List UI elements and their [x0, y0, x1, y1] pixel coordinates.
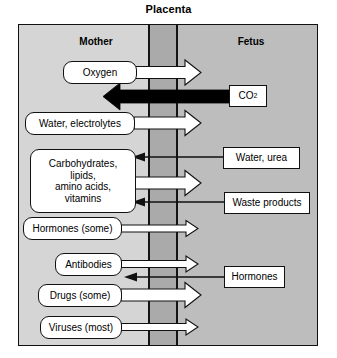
label-nutrients-line-2: lipids, [70, 170, 96, 182]
arrow-antibodies [121, 256, 198, 272]
arrow-drugs-some [121, 283, 201, 308]
label-hormones-fetal[interactable]: Hormones [224, 266, 285, 288]
arrow-water-urea [132, 153, 223, 162]
label-nutrients[interactable]: Carbohydrates, lipids, amino acids, vita… [30, 149, 136, 213]
arrow-hormones-fetal [124, 273, 224, 282]
arrow-viruses-most [121, 319, 198, 335]
placenta-diagram-frame: Mother Fetus Oxygen Water, electrolytes … [18, 24, 318, 346]
arrow-waste-products [132, 198, 224, 207]
label-co2[interactable]: CO2 [229, 85, 267, 107]
diagram-canvas: Placenta [0, 0, 337, 358]
arrow-oxygen [135, 60, 201, 85]
label-nutrients-line-1: Carbohydrates, [49, 158, 117, 170]
label-co2-text: CO [239, 90, 254, 102]
arrow-nutrients [134, 171, 201, 196]
label-drugs-some[interactable]: Drugs (some) [38, 284, 122, 307]
arrow-water-electrolytes [134, 111, 201, 136]
label-co2-subscript: 2 [254, 90, 258, 102]
label-oxygen[interactable]: Oxygen [63, 61, 137, 84]
label-water-urea[interactable]: Water, urea [223, 147, 300, 169]
label-viruses-most[interactable]: Viruses (most) [40, 316, 122, 339]
label-water-electrolytes[interactable]: Water, electrolytes [25, 112, 135, 135]
label-nutrients-line-4: vitamins [65, 193, 102, 205]
arrow-hormones-some [121, 221, 198, 237]
label-nutrients-line-3: amino acids, [55, 181, 111, 193]
page-title: Placenta [0, 3, 337, 15]
label-hormones-some[interactable]: Hormones (some) [23, 217, 122, 240]
arrow-co2 [103, 83, 230, 110]
label-antibodies[interactable]: Antibodies [55, 253, 122, 276]
label-waste-products[interactable]: Waste products [224, 192, 310, 214]
